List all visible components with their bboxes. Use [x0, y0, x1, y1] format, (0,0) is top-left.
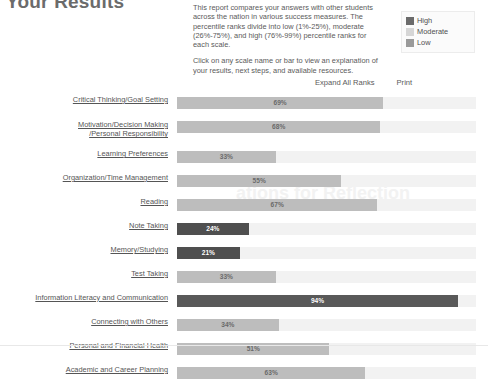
- bar-value-label: 34%: [221, 320, 234, 330]
- bar-track[interactable]: 69%: [177, 97, 476, 109]
- bar-track[interactable]: 67%: [177, 199, 476, 211]
- action-links: Expand All Ranks Print: [315, 78, 412, 87]
- legend-item-high: High: [406, 16, 470, 26]
- chart-row[interactable]: Motivation/Decision Making/Personal Resp…: [0, 120, 488, 140]
- bar-track[interactable]: 63%: [177, 367, 476, 379]
- bar-track[interactable]: 68%: [177, 121, 476, 133]
- bar-value-label: 68%: [272, 122, 285, 132]
- footer-divider: [0, 345, 488, 346]
- legend-item-moderate: Moderate: [406, 27, 470, 37]
- chart-row[interactable]: Memory/Studying21%: [0, 246, 488, 260]
- bar-value-label: 94%: [311, 296, 324, 306]
- results-bar-chart: Critical Thinking/Goal Setting69%Motivat…: [0, 96, 488, 383]
- bar-track[interactable]: 21%: [177, 247, 476, 259]
- scale-name-link[interactable]: Memory/Studying: [0, 246, 168, 254]
- chart-row[interactable]: Academic and Career Planning63%: [0, 366, 488, 380]
- legend-swatch-moderate-icon: [406, 28, 414, 36]
- scale-name-link[interactable]: Information Literacy and Communication: [0, 294, 168, 302]
- bar-track[interactable]: 33%: [177, 151, 476, 163]
- bar-track[interactable]: 55%: [177, 175, 476, 187]
- print-link[interactable]: Print: [397, 78, 413, 87]
- chart-legend: High Moderate Low: [401, 11, 475, 53]
- chart-row[interactable]: Note Taking24%: [0, 222, 488, 236]
- intro-text-block: This report compares your answers with o…: [193, 3, 379, 82]
- bar-value-label: 63%: [265, 368, 278, 378]
- bar-value-label: 55%: [253, 176, 266, 186]
- chart-row[interactable]: Test Taking33%: [0, 270, 488, 284]
- chart-row[interactable]: Learning Preferences33%: [0, 150, 488, 164]
- chart-row[interactable]: Critical Thinking/Goal Setting69%: [0, 96, 488, 110]
- chart-row[interactable]: Information Literacy and Communication94…: [0, 294, 488, 308]
- scale-name-link[interactable]: Academic and Career Planning: [0, 366, 168, 374]
- intro-paragraph-1: This report compares your answers with o…: [193, 3, 379, 49]
- legend-swatch-low-icon: [406, 39, 414, 47]
- scale-name-link[interactable]: Motivation/Decision Making/Personal Resp…: [0, 120, 168, 138]
- bar-value-label: 67%: [271, 200, 284, 210]
- expand-all-ranks-link[interactable]: Expand All Ranks: [315, 78, 375, 87]
- bar-value-label: 24%: [206, 224, 219, 234]
- bar-value-label: 33%: [220, 152, 233, 162]
- bar-track[interactable]: 34%: [177, 319, 476, 331]
- intro-paragraph-2: Click on any scale name or bar to view a…: [193, 56, 379, 75]
- scale-name-link[interactable]: Reading: [0, 198, 168, 206]
- legend-label-moderate: Moderate: [417, 28, 448, 36]
- bar-track[interactable]: 94%: [177, 295, 476, 307]
- page-title: Your Results: [6, 0, 124, 13]
- legend-swatch-high-icon: [406, 17, 414, 25]
- scale-name-link[interactable]: Test Taking: [0, 270, 168, 278]
- legend-item-low: Low: [406, 38, 470, 48]
- chart-row[interactable]: Organization/Time Management55%: [0, 174, 488, 188]
- chart-row[interactable]: Connecting with Others34%: [0, 318, 488, 332]
- legend-label-high: High: [417, 17, 432, 25]
- bar-value-label: 69%: [274, 98, 287, 108]
- bar-track[interactable]: 33%: [177, 271, 476, 283]
- scale-name-link[interactable]: Connecting with Others: [0, 318, 168, 326]
- legend-label-low: Low: [417, 39, 431, 47]
- bar-value-label: 33%: [220, 272, 233, 282]
- chart-row[interactable]: Reading67%: [0, 198, 488, 212]
- bar-value-label: 21%: [202, 248, 215, 258]
- scale-name-link[interactable]: Organization/Time Management: [0, 174, 168, 182]
- scale-name-link[interactable]: Note Taking: [0, 222, 168, 230]
- bar-track[interactable]: 24%: [177, 223, 476, 235]
- scale-name-link[interactable]: Critical Thinking/Goal Setting: [0, 96, 168, 104]
- scale-name-link[interactable]: Personal and Financial Health: [0, 342, 168, 350]
- scale-name-link[interactable]: Learning Preferences: [0, 150, 168, 158]
